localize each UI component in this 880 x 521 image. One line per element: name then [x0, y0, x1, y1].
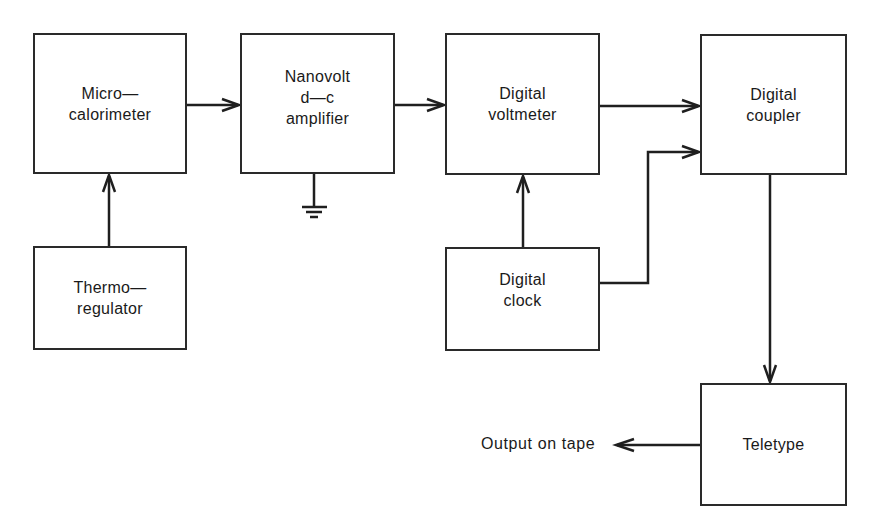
block-label: Teletype: [743, 434, 805, 455]
block-nanovolt-amplifier: Nanovolt d—c amplifier: [240, 33, 395, 174]
block-label: Digital clock: [499, 269, 546, 311]
block-digital-clock: Digital clock: [445, 247, 600, 351]
block-label: Digital voltmeter: [488, 83, 557, 125]
block-thermoregulator: Thermo— regulator: [33, 246, 187, 350]
output-label: Output on tape: [481, 435, 595, 453]
block-label: Thermo— regulator: [73, 277, 146, 319]
ground-icon: [302, 207, 327, 217]
block-label: Micro— calorimeter: [69, 83, 151, 125]
block-digital-voltmeter: Digital voltmeter: [445, 33, 600, 175]
block-label: Nanovolt d—c amplifier: [285, 66, 351, 129]
block-label: Digital coupler: [746, 84, 801, 126]
arrow-clock-to-coupler: [599, 152, 698, 283]
block-microcalorimeter: Micro— calorimeter: [33, 33, 187, 174]
block-digital-coupler: Digital coupler: [700, 34, 847, 175]
block-teletype: Teletype: [700, 383, 847, 506]
